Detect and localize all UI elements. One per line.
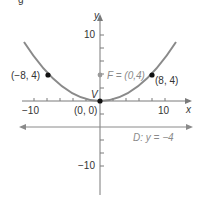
y-tick-neg10: −10 <box>78 160 95 171</box>
point-8-4 <box>149 72 154 77</box>
directrix-label: D: y = −4 <box>133 132 174 143</box>
focus-label: F = (0,4) <box>107 70 145 81</box>
vertex-point <box>97 98 102 103</box>
directrix-right-arrow-icon <box>186 124 193 130</box>
x-axis-label: x <box>185 104 192 115</box>
x-tick-10: 10 <box>158 105 170 116</box>
directrix <box>19 124 193 130</box>
point-neg8-4 <box>45 72 50 77</box>
y-axis <box>97 14 104 195</box>
focus-point <box>98 73 103 78</box>
directrix-left-arrow-icon <box>19 124 26 130</box>
y-axis-label: y <box>93 10 100 21</box>
point-label-right: (8, 4) <box>155 75 178 86</box>
vertex-letter: V <box>91 89 99 100</box>
y-tick-10: 10 <box>84 29 96 40</box>
parabola-diagram: g <box>0 0 203 199</box>
caption-fragment: g <box>18 0 24 5</box>
x-tick-neg10: −10 <box>22 105 39 116</box>
vertex-coords: (0, 0) <box>74 105 97 116</box>
point-label-left: (−8, 4) <box>11 70 40 81</box>
